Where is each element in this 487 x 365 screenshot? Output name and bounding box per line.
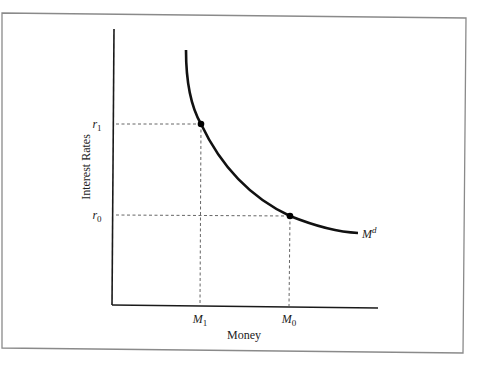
figure-frame [2,13,466,353]
guide-r0-horizontal [116,215,290,216]
point-r0-M0 [287,213,294,220]
tick-label-r0: r0 [92,208,102,224]
tick-label-r1: r1 [92,117,101,133]
point-r1-M1 [198,121,205,128]
guide-M1-vertical [200,124,201,306]
y-axis-title: Interest Rates [79,134,93,200]
guide-M0-vertical [289,216,290,307]
money-demand-diagram: r1 r0 M1 M0 Md Money Interest Rates [0,0,487,365]
x-axis [112,305,378,308]
money-demand-curve [186,50,358,233]
x-axis-title: Money [227,328,261,342]
y-axis [112,29,114,305]
curve-label-Md: Md [361,225,377,241]
tick-label-M1: M1 [192,312,208,328]
tick-label-M0: M0 [281,312,297,328]
